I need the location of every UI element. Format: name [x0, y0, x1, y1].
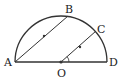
label-C: C	[97, 23, 105, 36]
diagram-canvas: A B C D O	[0, 0, 123, 80]
label-D: D	[109, 56, 118, 69]
label-B: B	[65, 3, 73, 16]
label-A: A	[3, 56, 13, 69]
angle-arc-DOC	[67, 57, 69, 63]
chord-AB	[15, 16, 68, 62]
label-O: O	[57, 67, 66, 80]
semicircle-arc	[15, 16, 107, 62]
geometry-diagram: A B C D O	[0, 0, 123, 80]
parallel-mark-OC	[79, 46, 81, 48]
segment-OC	[61, 31, 96, 62]
parallel-mark-AB	[43, 35, 45, 37]
center-point-O	[59, 60, 62, 63]
